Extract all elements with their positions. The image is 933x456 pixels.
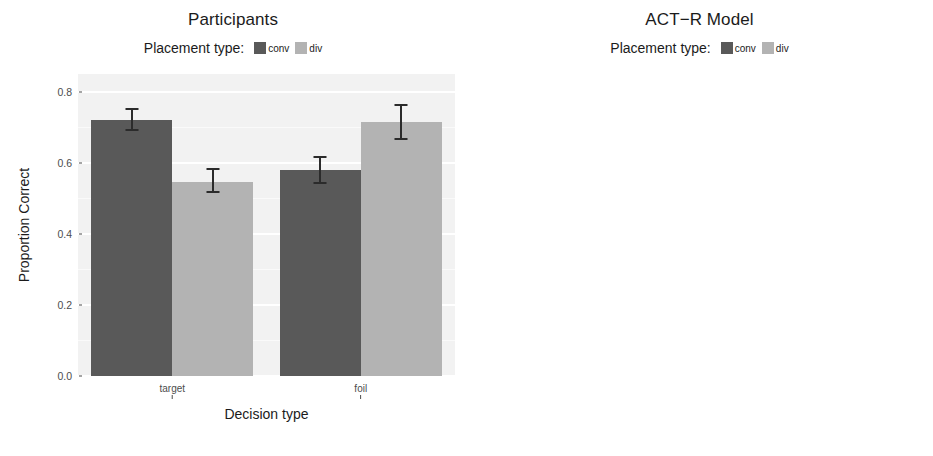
- x-axis-tick-label: foil: [354, 383, 367, 394]
- y-axis-tick-label: 0.8: [57, 86, 78, 98]
- x-axis-tick-mark: [172, 395, 173, 399]
- panel-act-r-model: ACT−R Model Placement type: conv div Pro…: [466, 0, 933, 456]
- legend-swatch-div: [762, 42, 774, 54]
- error-bar-stem: [131, 108, 133, 131]
- y-axis-tick-mark: [79, 233, 82, 234]
- legend-key-div[interactable]: div: [295, 42, 322, 54]
- bar: [361, 122, 442, 376]
- legend-key-div[interactable]: div: [762, 42, 789, 54]
- panel-title-participants: Participants: [0, 10, 466, 30]
- y-axis-tick-label: 0.4: [57, 228, 78, 240]
- bar: [91, 120, 172, 376]
- error-bar-cap-bottom: [314, 182, 327, 184]
- legend-participants: Placement type: conv div: [0, 40, 466, 56]
- figure-two-panel-bar-chart: Participants Placement type: conv div Pr…: [0, 0, 933, 456]
- bar: [172, 182, 253, 376]
- y-axis-tick-mark: [79, 376, 82, 377]
- panel-participants: Participants Placement type: conv div Pr…: [0, 0, 466, 456]
- y-axis-tick-label: 0.0: [57, 370, 78, 382]
- y-axis-tick-mark: [79, 304, 82, 305]
- legend-label-div: div: [776, 43, 789, 54]
- bar: [280, 170, 361, 376]
- error-bar-cap-top: [314, 156, 327, 158]
- y-axis-label-participants: Proportion Correct: [14, 74, 34, 376]
- legend-swatch-conv: [721, 42, 733, 54]
- legend-label-conv: conv: [735, 43, 756, 54]
- legend-label-conv: conv: [268, 43, 289, 54]
- y-axis-tick-mark: [79, 91, 82, 92]
- y-axis-tick-mark: [79, 162, 82, 163]
- x-axis-label-participants: Decision type: [78, 406, 455, 422]
- legend-title: Placement type:: [610, 40, 710, 56]
- panel-title-act-r-model: ACT−R Model: [466, 10, 933, 30]
- legend-key-conv[interactable]: conv: [721, 42, 756, 54]
- error-bar-cap-top: [206, 168, 219, 170]
- legend-swatch-div: [295, 42, 307, 54]
- gridline-major: [78, 91, 455, 93]
- y-axis-tick-label: 0.2: [57, 299, 78, 311]
- error-bar-stem: [319, 156, 321, 184]
- error-bar-stem: [400, 104, 402, 140]
- legend-label-div: div: [309, 43, 322, 54]
- y-axis-tick-label: 0.6: [57, 157, 78, 169]
- error-bar-cap-bottom: [125, 129, 138, 131]
- plot-area-participants: 0.00.20.40.60.8targetfoil: [78, 74, 455, 376]
- error-bar-cap-bottom: [206, 191, 219, 193]
- error-bar-cap-bottom: [395, 138, 408, 140]
- x-axis-tick-mark: [360, 395, 361, 399]
- legend-key-conv[interactable]: conv: [254, 42, 289, 54]
- error-bar-cap-top: [125, 108, 138, 110]
- legend-act-r-model: Placement type: conv div: [466, 40, 933, 56]
- error-bar: [91, 108, 172, 131]
- error-bar-stem: [212, 168, 214, 193]
- error-bar-cap-top: [395, 104, 408, 106]
- x-axis-tick-label: target: [159, 383, 185, 394]
- legend-swatch-conv: [254, 42, 266, 54]
- legend-title: Placement type:: [144, 40, 244, 56]
- error-bar: [361, 104, 442, 140]
- error-bar: [280, 156, 361, 184]
- error-bar: [172, 168, 253, 193]
